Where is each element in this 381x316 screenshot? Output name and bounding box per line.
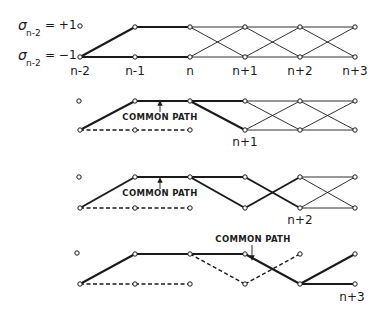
- trellis-node: [188, 252, 192, 256]
- trellis-node: [243, 282, 247, 286]
- trellis-node: [188, 25, 192, 29]
- isolated-state-node: [78, 24, 82, 28]
- end-label-n-plus-2: n+2: [287, 213, 312, 227]
- trellis-node: [298, 55, 302, 59]
- trellis-svg: σ n-2 = +1 σ n-2 = −1 n-2 n-1 n n+1 n+2 …: [0, 0, 381, 316]
- trellis-node: [353, 128, 357, 132]
- sigma-subscript: n-2: [26, 28, 41, 38]
- trellis-node: [188, 55, 192, 59]
- trellis-panels: [75, 24, 357, 286]
- isolated-state-node: [75, 251, 79, 255]
- state-label-minus: σ n-2 = −1: [18, 47, 77, 68]
- trellis-node: [298, 252, 302, 256]
- isolated-state-node: [77, 99, 81, 103]
- trellis-node: [133, 175, 137, 179]
- panel-4: [75, 245, 357, 286]
- state-value: = +1: [45, 18, 77, 32]
- survivor-path: [190, 101, 245, 130]
- common-path-label-panel-3: COMMON PATH: [122, 188, 197, 198]
- trellis-node: [353, 175, 357, 179]
- end-label-n-plus-1: n+1: [232, 135, 257, 149]
- trellis-node: [353, 252, 357, 256]
- trellis-node: [133, 128, 137, 132]
- time-axis-labels: n-2 n-1 n n+1 n+2 n+3: [70, 64, 367, 78]
- trellis-node: [298, 206, 302, 210]
- trellis-node: [298, 99, 302, 103]
- time-label-n-minus-2: n-2: [70, 64, 90, 78]
- trellis-node: [353, 55, 357, 59]
- trellis-node: [78, 55, 82, 59]
- trellis-node: [243, 128, 247, 132]
- panel-3: [77, 175, 357, 210]
- trellis-node: [188, 99, 192, 103]
- trellis-node: [353, 25, 357, 29]
- time-label-n-minus-1: n-1: [125, 64, 145, 78]
- isolated-state-node: [77, 175, 81, 179]
- trellis-node: [133, 252, 137, 256]
- survivor-path: [80, 27, 135, 57]
- state-value: = −1: [45, 48, 77, 62]
- discarded-path: [190, 254, 245, 284]
- trellis-node: [78, 128, 82, 132]
- trellis-node: [298, 175, 302, 179]
- survivor-path: [300, 254, 355, 284]
- trellis-node: [298, 128, 302, 132]
- common-path-label-panel-2: COMMON PATH: [122, 112, 197, 122]
- trellis-node: [243, 25, 247, 29]
- trellis-node: [243, 99, 247, 103]
- trellis-node: [188, 175, 192, 179]
- trellis-node: [133, 99, 137, 103]
- trellis-node: [298, 282, 302, 286]
- trellis-node: [353, 99, 357, 103]
- trellis-node: [243, 206, 247, 210]
- trellis-node: [243, 175, 247, 179]
- time-label-n-plus-1: n+1: [232, 64, 257, 78]
- trellis-node: [78, 206, 82, 210]
- trellis-node: [133, 25, 137, 29]
- trellis-node: [133, 206, 137, 210]
- trellis-diagram: σ n-2 = +1 σ n-2 = −1 n-2 n-1 n n+1 n+2 …: [0, 0, 381, 316]
- trellis-node: [243, 252, 247, 256]
- common-path-label-panel-4: COMMON PATH: [215, 234, 290, 244]
- sigma-subscript: n-2: [26, 58, 41, 68]
- trellis-node: [353, 206, 357, 210]
- panel-1: [78, 24, 357, 59]
- panel-2: [77, 99, 357, 132]
- survivor-path: [80, 254, 135, 284]
- trellis-node: [353, 282, 357, 286]
- trellis-node: [133, 55, 137, 59]
- time-label-n-plus-3: n+3: [342, 64, 367, 78]
- trellis-node: [188, 206, 192, 210]
- trellis-node: [78, 282, 82, 286]
- time-label-n-plus-2: n+2: [287, 64, 312, 78]
- time-label-n: n: [186, 64, 194, 78]
- trellis-node: [133, 282, 137, 286]
- state-label-plus: σ n-2 = +1: [18, 17, 77, 38]
- trellis-node: [188, 128, 192, 132]
- trellis-node: [188, 282, 192, 286]
- survivor-path: [190, 177, 245, 208]
- trellis-node: [298, 25, 302, 29]
- trellis-node: [243, 55, 247, 59]
- end-label-n-plus-3: n+3: [339, 290, 364, 304]
